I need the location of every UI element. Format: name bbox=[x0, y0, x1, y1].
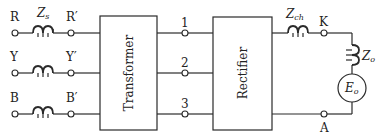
label-k: K bbox=[319, 15, 329, 29]
transformer-label: Transformer bbox=[122, 35, 136, 112]
circuit-diagram: R R′ Y Y′ B B′ Zs Transformer 1 2 3 Rect… bbox=[0, 0, 386, 140]
terminal-k bbox=[321, 30, 327, 36]
terminal-b-prime bbox=[68, 111, 74, 117]
inductor-zs-icon bbox=[33, 26, 53, 33]
terminal-1 bbox=[182, 30, 188, 36]
terminal-r bbox=[12, 30, 18, 36]
terminal-2 bbox=[182, 70, 188, 76]
label-r: R bbox=[10, 10, 20, 24]
input-line-b bbox=[12, 107, 100, 118]
label-y-prime: Y′ bbox=[65, 50, 77, 64]
label-r-prime: R′ bbox=[66, 10, 78, 24]
inductor-b-icon bbox=[33, 107, 53, 114]
inductor-zo-icon bbox=[352, 45, 359, 65]
terminal-y bbox=[12, 70, 18, 76]
output-top-line bbox=[272, 26, 352, 45]
label-b: B bbox=[10, 91, 19, 105]
inductor-zch-icon bbox=[288, 26, 308, 33]
label-zo: Zo bbox=[361, 49, 375, 64]
label-zch: Zch bbox=[285, 7, 304, 22]
input-line-r bbox=[12, 26, 100, 37]
label-y: Y bbox=[9, 50, 19, 64]
rectifier-label: Rectifier bbox=[236, 47, 250, 100]
terminal-3 bbox=[182, 111, 188, 117]
output-bottom-line bbox=[272, 111, 352, 117]
input-line-y bbox=[12, 66, 100, 77]
label-b-prime: B′ bbox=[66, 91, 78, 105]
inductor-y-icon bbox=[33, 66, 53, 73]
label-2: 2 bbox=[181, 56, 189, 70]
label-1: 1 bbox=[181, 16, 189, 30]
terminal-a bbox=[321, 111, 327, 117]
terminal-y-prime bbox=[68, 70, 74, 76]
label-3: 3 bbox=[181, 97, 189, 111]
label-a: A bbox=[319, 121, 329, 135]
terminal-b bbox=[12, 111, 18, 117]
terminal-r-prime bbox=[68, 30, 74, 36]
label-zs: Zs bbox=[36, 6, 49, 21]
